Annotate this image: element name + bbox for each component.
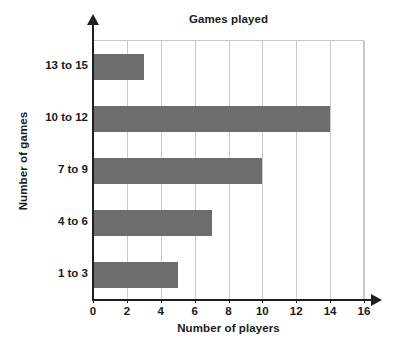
x-axis-tick bbox=[364, 299, 365, 303]
bar bbox=[93, 210, 212, 236]
x-axis-tick bbox=[127, 299, 128, 303]
bar bbox=[93, 54, 144, 80]
x-axis-tick-label: 4 bbox=[146, 305, 176, 317]
y-axis-arrow-icon bbox=[87, 14, 99, 25]
gridline bbox=[296, 41, 297, 301]
y-axis-line bbox=[92, 22, 94, 301]
x-axis-tick-label: 14 bbox=[315, 305, 345, 317]
gridline bbox=[364, 41, 365, 301]
x-axis-tick-label: 6 bbox=[180, 305, 210, 317]
y-axis-tick-label: 13 to 15 bbox=[8, 59, 88, 71]
x-axis-tick bbox=[229, 299, 230, 303]
bar bbox=[93, 106, 330, 132]
bar-chart: Games played 0246810121416 1 to 34 to 67… bbox=[0, 0, 411, 346]
x-axis-tick-label: 2 bbox=[112, 305, 142, 317]
bar bbox=[93, 158, 262, 184]
y-axis-title: Number of games bbox=[17, 71, 29, 251]
x-axis-tick bbox=[161, 299, 162, 303]
y-axis-tick-labels: 1 to 34 to 67 to 910 to 1213 to 15 bbox=[0, 40, 88, 300]
x-axis-title: Number of players bbox=[93, 322, 364, 334]
x-axis-tick bbox=[262, 299, 263, 303]
x-axis-tick bbox=[195, 299, 196, 303]
x-axis-tick-label: 12 bbox=[281, 305, 311, 317]
gridline bbox=[330, 41, 331, 301]
gridline bbox=[262, 41, 263, 301]
y-axis-tick-label: 1 to 3 bbox=[8, 267, 88, 279]
chart-title: Games played bbox=[93, 13, 364, 25]
bar bbox=[93, 262, 178, 288]
plot-area bbox=[93, 40, 364, 300]
x-axis-tick-label: 0 bbox=[78, 305, 108, 317]
x-axis-tick-label: 10 bbox=[247, 305, 277, 317]
x-axis-tick bbox=[93, 299, 94, 303]
x-axis-tick-label: 16 bbox=[349, 305, 379, 317]
x-axis-tick bbox=[296, 299, 297, 303]
x-axis-tick bbox=[330, 299, 331, 303]
x-axis-tick-label: 8 bbox=[214, 305, 244, 317]
